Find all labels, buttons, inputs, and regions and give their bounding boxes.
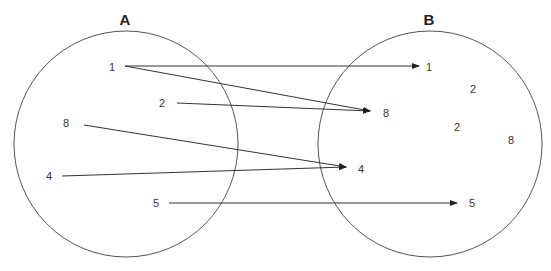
mapping-arrows bbox=[62, 66, 457, 203]
arrow-8-to-4 bbox=[84, 125, 346, 167]
set-b-element: 8 bbox=[383, 107, 389, 119]
set-a: A 1 2 8 4 5 bbox=[14, 11, 238, 257]
arrow-2-to-8 bbox=[177, 103, 370, 111]
set-b-label: B bbox=[424, 11, 435, 28]
set-b-element: 5 bbox=[469, 197, 475, 209]
set-a-element: 1 bbox=[109, 61, 115, 73]
set-b-element: 4 bbox=[358, 163, 364, 175]
set-b: B 1 2 8 2 8 4 5 bbox=[318, 11, 542, 257]
mapping-diagram: A 1 2 8 4 5 B 1 2 8 2 8 4 5 bbox=[0, 0, 551, 271]
set-a-element: 5 bbox=[153, 197, 159, 209]
set-b-element: 8 bbox=[508, 134, 514, 146]
set-a-element: 4 bbox=[46, 170, 52, 182]
set-b-element: 1 bbox=[426, 61, 432, 73]
arrow-4-to-4 bbox=[62, 167, 346, 176]
set-a-element: 8 bbox=[63, 117, 69, 129]
set-a-label: A bbox=[120, 11, 131, 28]
set-b-element: 2 bbox=[470, 83, 476, 95]
set-a-element: 2 bbox=[159, 97, 165, 109]
set-b-element: 2 bbox=[454, 121, 460, 133]
